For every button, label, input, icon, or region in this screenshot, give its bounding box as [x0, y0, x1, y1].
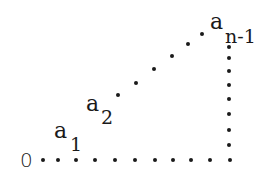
- label-a1-base: a: [54, 120, 67, 142]
- label-a2-base: a: [86, 93, 99, 115]
- bottom-row-dot: [171, 158, 175, 162]
- label-an1-subscript: n-1: [225, 27, 256, 46]
- diagonal-dot: [200, 32, 204, 36]
- bottom-row-dot: [93, 158, 97, 162]
- vertical-column-dot: [227, 69, 231, 73]
- vertical-column-dot: [227, 143, 231, 147]
- origin-label: 0: [20, 150, 33, 170]
- vertical-column-dot: [227, 83, 231, 87]
- bottom-row-dot: [41, 158, 45, 162]
- bottom-row-dot: [74, 158, 78, 162]
- diagonal-dot: [116, 93, 120, 97]
- diagonal-dot: [170, 54, 174, 58]
- bottom-row-dot: [133, 158, 137, 162]
- bottom-row-dot: [208, 158, 212, 162]
- vertical-column-dot: [227, 112, 231, 116]
- triangle-dot-diagram: 0 a 1 a 2 a n-1: [0, 0, 280, 176]
- bottom-row-dot: [228, 158, 232, 162]
- diagonal-dot: [152, 67, 156, 71]
- label-a2-subscript: 2: [101, 108, 113, 127]
- vertical-column-dot: [227, 56, 231, 60]
- bottom-row-dot: [153, 158, 157, 162]
- vertical-column-dot: [227, 128, 231, 132]
- label-a1-subscript: 1: [70, 135, 82, 154]
- bottom-row-dot: [56, 158, 60, 162]
- bottom-row-dot: [189, 158, 193, 162]
- vertical-column-dot: [227, 97, 231, 101]
- bottom-row-dot: [113, 158, 117, 162]
- label-an1-base: a: [210, 11, 223, 33]
- diagonal-dot: [186, 42, 190, 46]
- diagonal-dot: [134, 81, 138, 85]
